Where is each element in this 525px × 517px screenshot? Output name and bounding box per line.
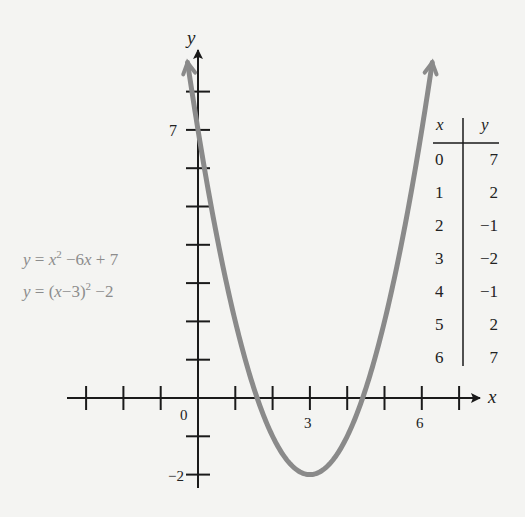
y-axis-label: y xyxy=(185,27,196,48)
table-cell-x: 1 xyxy=(435,183,444,203)
table-cell-y: 2 xyxy=(458,183,498,203)
origin-label: 0 xyxy=(180,407,188,423)
x-tick-label-3: 3 xyxy=(304,415,312,431)
equation-standard-form: y = x2 −6x + 7 xyxy=(23,250,118,270)
table-header-y: y xyxy=(481,115,489,135)
table-header-x: x xyxy=(436,115,444,135)
x-tick-label-6: 6 xyxy=(416,415,424,431)
table-cell-y: −1 xyxy=(458,216,498,236)
x-axis-label: x xyxy=(487,386,497,407)
parabola-curve xyxy=(183,63,436,475)
y-tick-label-neg2: −2 xyxy=(168,468,184,484)
figure: y x 0 3 6 7 −2 y = x2 −6x + 7 y = (x−3)2… xyxy=(0,0,525,517)
table-cell-x: 6 xyxy=(435,348,444,368)
equation-vertex-form: y = (x−3)2 −2 xyxy=(23,282,113,302)
table-cell-y: −2 xyxy=(458,249,498,269)
table-cell-x: 4 xyxy=(435,282,444,302)
x-axis xyxy=(67,386,480,410)
table-cell-x: 0 xyxy=(435,150,444,170)
y-tick-label-7: 7 xyxy=(169,122,177,139)
table-cell-x: 3 xyxy=(435,249,444,269)
table-cell-y: 7 xyxy=(458,150,498,170)
table-cell-x: 2 xyxy=(435,216,444,236)
table-cell-x: 5 xyxy=(435,315,444,335)
table-cell-y: −1 xyxy=(458,282,498,302)
table-cell-y: 2 xyxy=(458,315,498,335)
table-cell-y: 7 xyxy=(458,348,498,368)
